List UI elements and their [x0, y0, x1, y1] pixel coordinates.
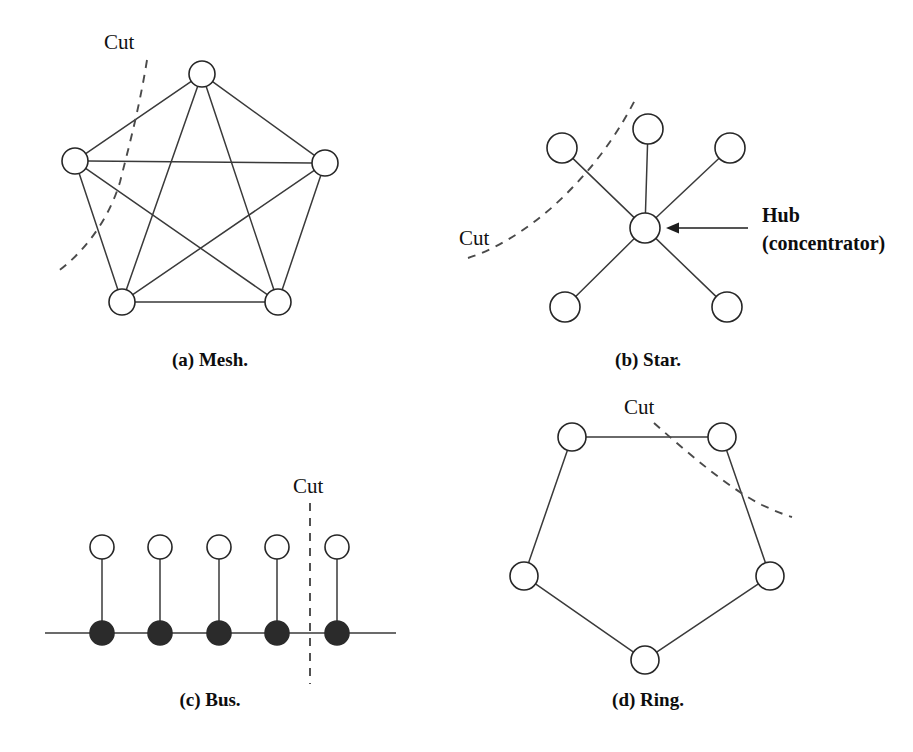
star-cut-label: Cut	[459, 226, 490, 250]
mesh-node[interactable]	[312, 150, 338, 176]
ring-link	[536, 584, 634, 652]
mesh-cut-label: Cut	[104, 30, 135, 54]
hub-label-line1: Hub	[762, 204, 800, 226]
panel-mesh: Cut (a) Mesh.	[57, 30, 338, 371]
mesh-link	[213, 82, 315, 156]
bus-tap-node[interactable]	[325, 621, 349, 645]
star-node[interactable]	[547, 133, 577, 163]
ring-link	[727, 450, 766, 563]
bus-cut-label: Cut	[293, 474, 324, 498]
ring-cut-label: Cut	[624, 395, 655, 419]
mesh-link	[126, 86, 197, 289]
ring-node[interactable]	[558, 423, 586, 451]
star-node[interactable]	[633, 114, 663, 144]
mesh-link	[88, 161, 312, 163]
mesh-node[interactable]	[265, 289, 291, 315]
star-link	[656, 158, 719, 217]
panel-star: Hub (concentrator) Cut (b) Star.	[459, 96, 885, 371]
bus-tap-node[interactable]	[90, 621, 114, 645]
network-topology-figure: Cut (a) Mesh. Hub (concentrator) Cut (b)…	[0, 0, 913, 752]
bus-caption: (c) Bus.	[179, 689, 240, 711]
mesh-link	[79, 173, 118, 289]
mesh-link	[86, 81, 192, 153]
ring-node[interactable]	[708, 423, 736, 451]
mesh-node[interactable]	[109, 289, 135, 315]
ring-node-group	[510, 423, 784, 674]
star-node[interactable]	[715, 133, 745, 163]
bus-station-node[interactable]	[148, 535, 172, 559]
ring-node[interactable]	[510, 562, 538, 590]
mesh-node[interactable]	[62, 148, 88, 174]
bus-station-node[interactable]	[325, 535, 349, 559]
star-cut-line	[468, 96, 637, 258]
ring-caption: (d) Ring.	[612, 689, 684, 711]
mesh-edge-group	[79, 81, 321, 302]
ring-link	[657, 584, 759, 652]
star-node[interactable]	[550, 292, 580, 322]
star-link	[576, 239, 635, 297]
bus-station-node[interactable]	[90, 535, 114, 559]
hub-label-line2: (concentrator)	[762, 232, 885, 255]
ring-link	[529, 450, 568, 563]
star-node[interactable]	[712, 292, 742, 322]
hub-pointer-arrow	[666, 223, 748, 234]
bus-tap-node[interactable]	[265, 621, 289, 645]
star-link	[573, 158, 634, 217]
bus-tap-node[interactable]	[207, 621, 231, 645]
star-hub-node	[630, 213, 660, 243]
mesh-caption: (a) Mesh.	[172, 349, 248, 371]
star-link	[645, 144, 647, 213]
star-link	[656, 238, 716, 296]
hub-arrow-head	[666, 223, 679, 234]
topology-diagram-canvas: Cut (a) Mesh. Hub (concentrator) Cut (b)…	[0, 0, 913, 752]
star-hub-circle[interactable]	[630, 213, 660, 243]
bus-station-node[interactable]	[207, 535, 231, 559]
ring-node[interactable]	[631, 646, 659, 674]
panel-ring: Cut (d) Ring.	[510, 395, 792, 711]
ring-edge-group	[529, 437, 766, 652]
bus-station-node[interactable]	[265, 535, 289, 559]
bus-tap-node[interactable]	[148, 621, 172, 645]
mesh-node-group	[62, 61, 338, 315]
mesh-link	[282, 175, 321, 289]
panel-bus: Cut (c) Bus.	[45, 474, 396, 711]
ring-node[interactable]	[756, 562, 784, 590]
star-caption: (b) Star.	[615, 349, 681, 371]
mesh-node[interactable]	[189, 61, 215, 87]
